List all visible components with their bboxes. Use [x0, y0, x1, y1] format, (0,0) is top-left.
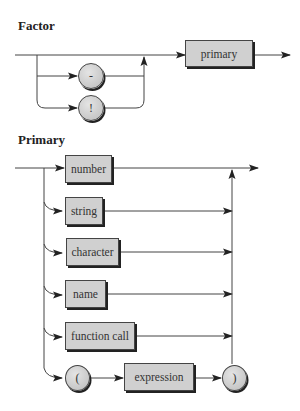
primary-title: Primary: [18, 132, 65, 148]
open-paren-node: (: [65, 365, 90, 391]
character-node: character: [66, 238, 119, 266]
not-operator-node: !: [78, 95, 104, 121]
minus-operator-node: -: [78, 63, 104, 89]
primary-node: primary: [185, 40, 253, 67]
name-node: name: [65, 280, 106, 308]
railroad-lines: [0, 0, 300, 411]
factor-title: Factor: [18, 18, 55, 34]
string-node: string: [65, 197, 103, 225]
expression-node: expression: [124, 363, 194, 391]
number-node: number: [65, 155, 112, 183]
close-paren-node: ): [222, 365, 247, 391]
function-call-node: function call: [65, 322, 135, 350]
